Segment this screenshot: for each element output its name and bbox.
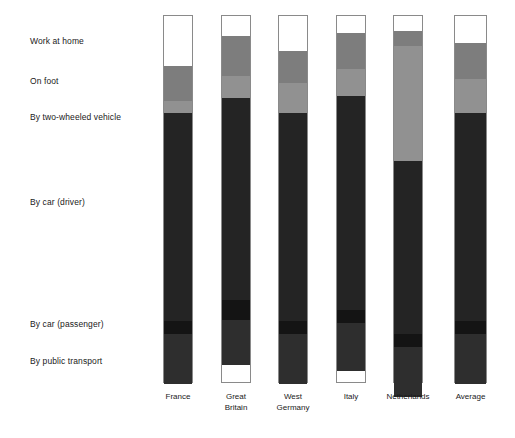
- x-axis-tick-label: Average: [436, 392, 505, 403]
- bar-segment[interactable]: [337, 310, 365, 323]
- bar-column: [393, 15, 423, 383]
- bar-column: [221, 15, 251, 383]
- x-axis-tick-label: West Germany: [260, 392, 326, 413]
- bar-segment[interactable]: [222, 36, 250, 76]
- bar-column: [163, 15, 193, 383]
- bar-segment[interactable]: [164, 66, 192, 101]
- bar-segment[interactable]: [455, 113, 486, 321]
- bar-segment[interactable]: [455, 43, 486, 79]
- bar-segment[interactable]: [164, 334, 192, 384]
- bar-segment[interactable]: [222, 98, 250, 300]
- bar-stack[interactable]: [336, 15, 366, 383]
- bar-segment[interactable]: [222, 76, 250, 98]
- bar-segment[interactable]: [337, 69, 365, 96]
- bar-segment[interactable]: [164, 101, 192, 113]
- bar-segment[interactable]: [279, 16, 307, 51]
- x-axis-tick-label: France: [145, 392, 211, 403]
- bar-segment[interactable]: [394, 347, 422, 397]
- bar-segment[interactable]: [394, 161, 422, 334]
- plot-area: FranceGreat BritainWest GermanyItalyNeth…: [0, 0, 515, 438]
- bar-segment[interactable]: [455, 334, 486, 384]
- bar-segment[interactable]: [279, 83, 307, 113]
- bar-column: [278, 15, 308, 383]
- stacked-bar-chart: Work at home On foot By two-wheeled vehi…: [0, 0, 515, 438]
- x-axis-tick-label: Netherlands: [375, 392, 441, 403]
- bar-segment[interactable]: [455, 79, 486, 113]
- bar-segment[interactable]: [222, 300, 250, 320]
- bar-segment[interactable]: [279, 51, 307, 83]
- bar-segment[interactable]: [222, 16, 250, 36]
- bar-segment[interactable]: [279, 113, 307, 321]
- bar-segment[interactable]: [164, 16, 192, 66]
- bar-segment[interactable]: [337, 33, 365, 69]
- bar-segment[interactable]: [455, 16, 486, 43]
- bar-segment[interactable]: [394, 31, 422, 46]
- bar-segment[interactable]: [394, 334, 422, 347]
- bar-column: [454, 15, 487, 383]
- bar-stack[interactable]: [454, 15, 487, 383]
- bar-segment[interactable]: [279, 334, 307, 384]
- bar-segment[interactable]: [337, 323, 365, 371]
- bar-segment[interactable]: [279, 321, 307, 334]
- bar-stack[interactable]: [163, 15, 193, 383]
- bar-segment[interactable]: [337, 16, 365, 33]
- bar-segment[interactable]: [394, 16, 422, 31]
- bar-segment[interactable]: [222, 320, 250, 365]
- bar-segment[interactable]: [337, 96, 365, 310]
- bar-column: [336, 15, 366, 383]
- bar-segment[interactable]: [455, 321, 486, 334]
- bar-segment[interactable]: [164, 321, 192, 334]
- bar-stack[interactable]: [393, 15, 423, 383]
- bar-segment[interactable]: [394, 46, 422, 161]
- bar-stack[interactable]: [221, 15, 251, 383]
- bar-segment[interactable]: [164, 113, 192, 321]
- bar-stack[interactable]: [278, 15, 308, 383]
